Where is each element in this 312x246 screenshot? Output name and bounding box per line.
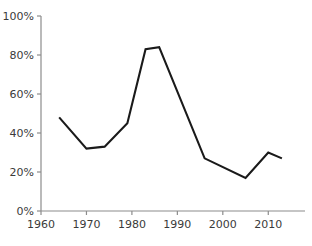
- y-tick-label: 0%: [17, 206, 34, 217]
- x-tick-label: 1980: [118, 219, 146, 230]
- data-series-line: [59, 47, 282, 178]
- y-tick-label: 20%: [10, 167, 34, 178]
- y-axis: [37, 16, 41, 211]
- y-tick-label: 40%: [10, 128, 34, 139]
- x-tick-label: 1960: [27, 219, 55, 230]
- x-tick-label: 1990: [163, 219, 191, 230]
- x-tick-label: 1970: [72, 219, 100, 230]
- y-tick-label: 80%: [10, 50, 34, 61]
- line-chart: 0%20%40%60%80%100% 196019701980199020002…: [0, 0, 312, 246]
- x-tick-label: 2010: [254, 219, 282, 230]
- y-tick-label: 60%: [10, 89, 34, 100]
- y-tick-label: 100%: [3, 11, 34, 22]
- x-axis: [41, 211, 305, 215]
- chart-plot-area: [0, 0, 312, 246]
- x-tick-label: 2000: [209, 219, 237, 230]
